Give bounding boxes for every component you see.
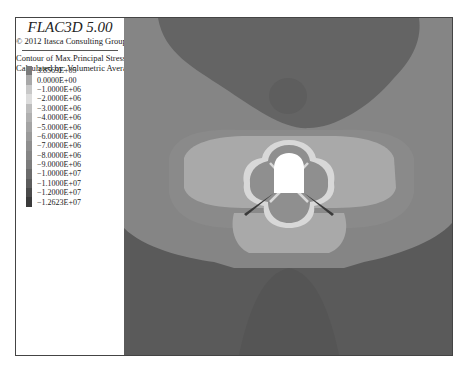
legend-swatch (26, 179, 32, 188)
legend-level-label: −1.2000E+07 (37, 188, 81, 197)
legend-swatch (26, 94, 32, 103)
legend-swatch (26, 122, 32, 131)
legend-level-label: −7.0000E+06 (37, 141, 81, 150)
legend-level-label: −1.2623E+07 (37, 198, 81, 207)
legend-swatch (26, 132, 32, 141)
legend-level-label: −8.0000E+06 (37, 151, 81, 160)
legend-swatch (26, 113, 32, 122)
legend-swatch (26, 85, 32, 94)
legend-level-label: −3.0000E+06 (37, 104, 81, 113)
legend-swatch (26, 188, 32, 197)
upper-blob (269, 78, 307, 114)
legend-level: −8.0000E+06 (16, 151, 124, 160)
legend-level: −1.1000E+07 (16, 179, 124, 188)
legend-swatch (26, 75, 32, 84)
legend-level-label: −6.0000E+06 (37, 132, 81, 141)
legend-level: −7.0000E+06 (16, 141, 124, 150)
legend-level: −2.0000E+06 (16, 94, 124, 103)
legend-level-label: −2.0000E+06 (37, 94, 81, 103)
legend-level: 3.8569E+05 (16, 66, 124, 75)
legend-level: −1.2000E+07 (16, 188, 124, 197)
color-scale: 3.8569E+050.0000E+00−1.0000E+06−2.0000E+… (16, 66, 124, 207)
copyright-text: © 2012 Itasca Consulting Group,Inc. (16, 36, 124, 47)
legend-level-label: −5.0000E+06 (37, 123, 81, 132)
legend-swatch (26, 66, 32, 75)
legend-level-label: −9.0000E+06 (37, 160, 81, 169)
legend-level-label: 0.0000E+00 (37, 76, 76, 85)
legend-swatch (26, 160, 32, 169)
legend-level: −9.0000E+06 (16, 160, 124, 169)
figure-frame: FLAC3D 5.00 © 2012 Itasca Consulting Gro… (15, 17, 453, 356)
legend-level-label: −1.0000E+06 (37, 85, 81, 94)
legend-swatch (26, 104, 32, 113)
legend-level: −6.0000E+06 (16, 132, 124, 141)
legend-level: −1.2623E+07 (16, 197, 124, 206)
legend-divider (22, 50, 118, 51)
contour-svg (124, 18, 452, 355)
legend-level: −1.0000E+07 (16, 169, 124, 178)
legend-level: −1.0000E+06 (16, 85, 124, 94)
software-title: FLAC3D 5.00 (16, 19, 124, 36)
legend-swatch (26, 197, 32, 206)
legend-swatch (26, 151, 32, 160)
legend-level: −4.0000E+06 (16, 113, 124, 122)
legend-level: −3.0000E+06 (16, 104, 124, 113)
legend-level-label: 3.8569E+05 (37, 66, 76, 75)
legend-swatch (26, 141, 32, 150)
legend-level-label: −4.0000E+06 (37, 113, 81, 122)
contour-label: Contour of Max.Principal Stress (16, 53, 124, 63)
legend-panel: FLAC3D 5.00 © 2012 Itasca Consulting Gro… (16, 18, 125, 355)
legend-level: 0.0000E+00 (16, 75, 124, 84)
legend-level: −5.0000E+06 (16, 122, 124, 131)
legend-level-label: −1.1000E+07 (37, 179, 81, 188)
legend-level-label: −1.0000E+07 (37, 169, 81, 178)
tunnel-opening (274, 153, 304, 193)
contour-plot (124, 18, 452, 355)
legend-swatch (26, 169, 32, 178)
